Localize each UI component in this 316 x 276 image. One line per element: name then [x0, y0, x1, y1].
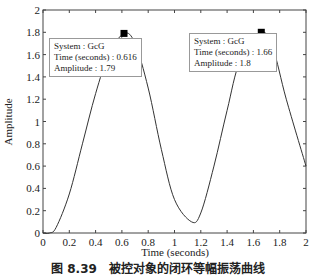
y-tick-label: 1.2 — [26, 93, 40, 105]
y-tick-label: 1.8 — [26, 26, 40, 38]
datatip-marker[interactable] — [121, 30, 128, 37]
figure-caption: 图 8.39 被控对象的闭环等幅振荡曲线 — [0, 259, 316, 276]
x-tick-label: 0.6 — [115, 236, 129, 248]
x-tick-label: 1.8 — [273, 236, 287, 248]
datatip-1-time: Time (seconds) : 0.616 — [54, 52, 137, 63]
datatip-2-time: Time (seconds) : 1.66 — [194, 47, 272, 58]
y-tick-label: 1.6 — [26, 49, 40, 61]
x-axis-label: Time (seconds) — [141, 246, 209, 259]
y-tick-label: 0 — [35, 227, 41, 239]
x-tick-label: 1.6 — [247, 236, 261, 248]
y-tick-label: 2 — [35, 4, 41, 16]
datatip-1: System : GcG Time (seconds) : 0.616 Ampl… — [49, 38, 142, 77]
y-axis-label: Amplitude — [2, 98, 14, 145]
y-tick-label: 0.4 — [26, 182, 40, 194]
y-tick-label: 0.6 — [26, 160, 40, 172]
y-tick-label: 1.4 — [26, 71, 40, 83]
x-tick-label: 0 — [40, 236, 46, 248]
x-tick-label: 1.4 — [220, 236, 234, 248]
datatip-2-amplitude: Amplitude : 1.8 — [194, 58, 272, 69]
y-tick-label: 0.2 — [26, 205, 40, 217]
y-tick-label: 0.8 — [26, 138, 40, 150]
datatip-2: System : GcG Time (seconds) : 1.66 Ampli… — [189, 33, 277, 72]
datatip-2-system: System : GcG — [194, 36, 272, 47]
x-tick-label: 0.2 — [62, 236, 76, 248]
x-tick-label: 0.4 — [89, 236, 103, 248]
y-tick-label: 1 — [35, 116, 41, 128]
datatip-1-system: System : GcG — [54, 41, 137, 52]
x-tick-label: 2 — [303, 236, 309, 248]
datatip-1-amplitude: Amplitude : 1.79 — [54, 63, 137, 74]
